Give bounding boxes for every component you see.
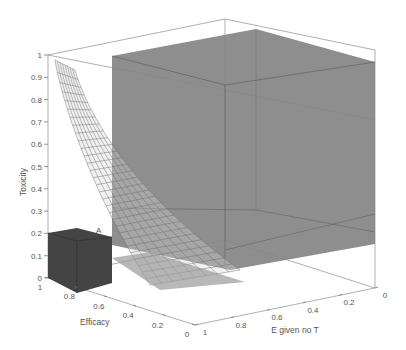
z-tick-label: 0.1 bbox=[31, 252, 43, 261]
efficacy-axis-label: Efficacy bbox=[80, 317, 110, 327]
efficacy-tick bbox=[163, 315, 166, 316]
e-given-no-t-axis-label: E given no T bbox=[271, 325, 319, 335]
3d-surface-chart: A 00.10.20.30.40.50.60.70.80.91 10.80.60… bbox=[0, 0, 406, 350]
efficacy-tick-label: 1 bbox=[38, 283, 43, 292]
e-given-no-t-tick-label: 0 bbox=[383, 291, 388, 300]
small-cube-body bbox=[48, 228, 112, 293]
z-tick-label: 0.6 bbox=[31, 140, 43, 149]
efficacy-tick-label: 0.6 bbox=[93, 302, 105, 311]
z-tick-label: 0.8 bbox=[31, 96, 43, 105]
z-tick-label: 0.3 bbox=[31, 207, 43, 216]
annotation-a: A bbox=[96, 226, 102, 235]
z-tick-label: 1 bbox=[38, 51, 43, 60]
efficacy-tick bbox=[192, 324, 195, 325]
e-given-no-t-tick-label: 1 bbox=[203, 328, 208, 337]
efficacy-tick-label: 0.4 bbox=[123, 311, 135, 320]
efficacy-tick bbox=[104, 296, 107, 297]
z-tick-label: 0.5 bbox=[31, 163, 43, 172]
z-tick-label: 0 bbox=[38, 274, 43, 283]
z-axis-ticks: 00.10.20.30.40.50.60.70.80.91 bbox=[31, 51, 48, 283]
e-given-no-t-tick-label: 0.8 bbox=[235, 321, 247, 330]
z-tick-label: 0.2 bbox=[31, 229, 43, 238]
e-given-no-t-tick bbox=[375, 287, 378, 288]
e-given-no-t-tick-label: 0.6 bbox=[271, 313, 283, 322]
efficacy-tick-label: 0.8 bbox=[64, 292, 76, 301]
e-given-no-t-tick-label: 0.4 bbox=[307, 306, 319, 315]
z-tick-label: 0.4 bbox=[31, 185, 43, 194]
e-given-no-t-tick-label: 0.2 bbox=[343, 298, 355, 307]
z-tick-label: 0.7 bbox=[31, 118, 43, 127]
z-tick-label: 0.9 bbox=[31, 73, 43, 82]
efficacy-tick bbox=[133, 305, 136, 306]
small-region-cube: A bbox=[48, 226, 112, 293]
z-axis-label: Toxicity bbox=[18, 167, 28, 196]
efficacy-tick-label: 0.2 bbox=[152, 321, 164, 330]
efficacy-tick-label: 0 bbox=[185, 330, 190, 339]
